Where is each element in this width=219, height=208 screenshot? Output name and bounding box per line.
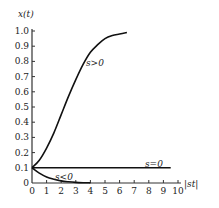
x-axis-label: |st| — [184, 179, 198, 190]
x-tick-label: 3 — [73, 186, 79, 196]
y-tick-label: 0.7 — [15, 72, 30, 82]
label-s-negative: s<0 — [55, 172, 73, 182]
x-tick-label: 2 — [58, 186, 64, 196]
x-tick-label: 7 — [131, 186, 137, 196]
y-tick-label: 0.5 — [15, 102, 30, 112]
x-tick-label: 0 — [29, 186, 35, 196]
y-tick-label: 0.3 — [15, 132, 30, 142]
x-tick-label: 6 — [117, 186, 123, 196]
y-tick-label: 0.2 — [15, 148, 29, 158]
x-tick-label: 10 — [172, 186, 184, 196]
x-tick-label: 5 — [102, 186, 108, 196]
label-s-zero: s=0 — [145, 159, 163, 169]
plot-area: 00.10.20.30.40.50.60.70.80.91.0012345678… — [0, 0, 219, 208]
y-tick-label: 0.8 — [15, 56, 30, 66]
y-tick-label: 0.1 — [15, 163, 29, 173]
y-tick-label: 0.4 — [15, 117, 30, 127]
x-tick-label: 8 — [146, 186, 152, 196]
x-tick-label: 9 — [161, 186, 167, 196]
y-tick-label: 0.6 — [15, 87, 30, 97]
series-line — [32, 33, 127, 168]
ticks: 00.10.20.30.40.50.60.70.80.91.0012345678… — [15, 26, 184, 196]
y-axis-label: x(t) — [18, 9, 34, 19]
y-tick-label: 1.0 — [15, 26, 30, 36]
chart: 00.10.20.30.40.50.60.70.80.91.0012345678… — [0, 0, 219, 208]
x-tick-label: 1 — [44, 186, 50, 196]
x-tick-label: 4 — [88, 186, 94, 196]
y-tick-label: 0.9 — [15, 41, 30, 51]
label-s-positive: s>0 — [86, 58, 104, 68]
